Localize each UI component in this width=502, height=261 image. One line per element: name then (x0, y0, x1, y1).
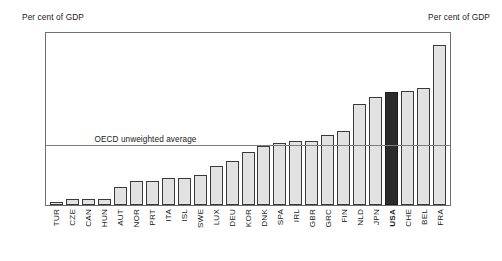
bar-slot-isl (176, 33, 192, 205)
category-label-hun: HUN (100, 209, 109, 227)
category-slot-fra: FRA (432, 207, 448, 255)
category-slot-fin: FIN (336, 207, 352, 255)
bar-spa[interactable] (273, 143, 286, 205)
bar-slot-usa (383, 33, 399, 205)
bar-deu[interactable] (226, 161, 239, 205)
bar-series (46, 33, 450, 205)
category-slot-nor: NOR (128, 207, 144, 255)
category-label-kor: KOR (244, 209, 253, 227)
category-label-dnk: DNK (260, 209, 269, 227)
oecd-average-line (46, 145, 450, 146)
bar-slot-nld (352, 33, 368, 205)
bar-prt[interactable] (146, 181, 159, 205)
bar-swe[interactable] (194, 175, 207, 205)
bar-slot-aut (113, 33, 129, 205)
bar-ita[interactable] (162, 178, 175, 205)
bar-hun[interactable] (98, 199, 111, 205)
category-slot-swe: SWE (192, 207, 208, 255)
bar-dnk[interactable] (257, 146, 270, 205)
chart-figure: Per cent of GDP Per cent of GDP 0.00.00.… (0, 0, 502, 261)
category-label-lux: LUX (212, 209, 221, 225)
category-slot-che: CHE (400, 207, 416, 255)
bar-jpn[interactable] (369, 97, 382, 205)
bar-slot-swe (192, 33, 208, 205)
category-slot-gbr: GBR (304, 207, 320, 255)
bar-gbr[interactable] (305, 141, 318, 205)
bar-cze[interactable] (66, 199, 79, 205)
category-label-cze: CZE (68, 209, 77, 226)
y-axis-unit-label-right: Per cent of GDP (428, 12, 490, 22)
x-axis-category-labels: TURCZECANHUNAUTNORPRTITAISLSWELUXDEUKORD… (45, 207, 451, 255)
bar-usa[interactable] (385, 92, 398, 205)
category-label-bel: BEL (420, 209, 429, 225)
bar-slot-nor (129, 33, 145, 205)
oecd-average-label: OECD unweighted average (94, 135, 196, 144)
category-label-ita: ITA (164, 209, 173, 222)
bar-kor[interactable] (242, 152, 255, 205)
category-label-nld: NLD (356, 209, 365, 226)
bar-slot-deu (224, 33, 240, 205)
category-label-deu: DEU (228, 209, 237, 227)
category-label-can: CAN (84, 209, 93, 227)
category-label-isl: ISL (180, 209, 189, 222)
category-label-gbr: GBR (308, 209, 317, 227)
bar-slot-prt (145, 33, 161, 205)
category-slot-prt: PRT (144, 207, 160, 255)
category-slot-hun: HUN (96, 207, 112, 255)
category-slot-irl: IRL (288, 207, 304, 255)
category-label-grc: GRC (324, 209, 333, 228)
category-slot-cze: CZE (64, 207, 80, 255)
bar-slot-irl (288, 33, 304, 205)
category-slot-nld: NLD (352, 207, 368, 255)
bar-slot-fin (336, 33, 352, 205)
category-slot-tur: TUR (48, 207, 64, 255)
bar-fin[interactable] (337, 131, 350, 205)
bar-slot-dnk (256, 33, 272, 205)
bar-nld[interactable] (353, 104, 366, 205)
bar-slot-cze (65, 33, 81, 205)
bar-che[interactable] (401, 91, 414, 205)
category-label-prt: PRT (148, 209, 157, 226)
category-slot-ita: ITA (160, 207, 176, 255)
category-label-tur: TUR (52, 209, 61, 226)
plot-area: 0.00.00.10.10.20.20.30.30.40.40.50.5 OEC… (46, 33, 450, 205)
category-slot-jpn: JPN (368, 207, 384, 255)
bar-slot-spa (272, 33, 288, 205)
bar-slot-kor (240, 33, 256, 205)
bar-tur[interactable] (50, 202, 63, 205)
bar-bel[interactable] (417, 88, 430, 205)
bar-can[interactable] (82, 199, 95, 205)
category-label-usa: USA (388, 209, 397, 227)
bar-aut[interactable] (114, 187, 127, 205)
category-slot-can: CAN (80, 207, 96, 255)
bar-slot-jpn (367, 33, 383, 205)
bar-nor[interactable] (130, 181, 143, 205)
category-slot-bel: BEL (416, 207, 432, 255)
bar-isl[interactable] (178, 178, 191, 205)
bar-grc[interactable] (321, 135, 334, 205)
category-label-aut: AUT (116, 209, 125, 226)
plot-frame: 0.00.00.10.10.20.20.30.30.40.40.50.5 OEC… (45, 32, 451, 206)
category-label-jpn: JPN (372, 209, 381, 225)
bar-slot-grc (320, 33, 336, 205)
category-label-fra: FRA (436, 209, 445, 226)
bar-slot-gbr (304, 33, 320, 205)
bar-lux[interactable] (210, 166, 223, 205)
category-label-swe: SWE (196, 209, 205, 228)
bar-fra[interactable] (433, 45, 446, 205)
category-label-irl: IRL (292, 209, 301, 222)
bar-slot-lux (208, 33, 224, 205)
category-slot-usa: USA (384, 207, 400, 255)
category-slot-dnk: DNK (256, 207, 272, 255)
y-axis-unit-label-left: Per cent of GDP (22, 12, 84, 22)
category-label-che: CHE (404, 209, 413, 227)
category-label-fin: FIN (340, 209, 349, 223)
bar-irl[interactable] (289, 141, 302, 205)
bar-slot-can (81, 33, 97, 205)
bar-slot-bel (415, 33, 431, 205)
category-slot-aut: AUT (112, 207, 128, 255)
bar-slot-hun (97, 33, 113, 205)
bar-slot-ita (160, 33, 176, 205)
bar-slot-che (399, 33, 415, 205)
category-slot-spa: SPA (272, 207, 288, 255)
